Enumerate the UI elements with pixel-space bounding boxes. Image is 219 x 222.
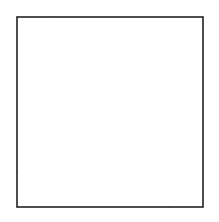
figure-container [0,0,219,222]
nested-squares-diagram [0,0,219,222]
outer-square-border [17,17,203,207]
